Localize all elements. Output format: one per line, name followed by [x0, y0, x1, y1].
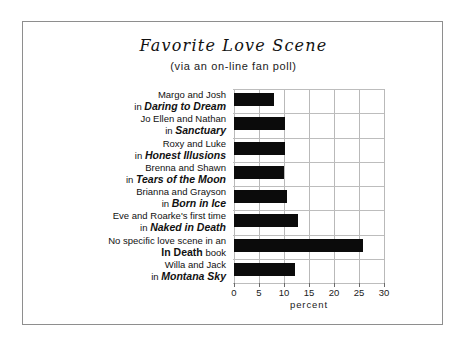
category-label-line1: Brianna and Grayson	[53, 186, 226, 197]
bar-row	[234, 113, 384, 137]
category-label-line1: Brenna and Shawn	[53, 162, 226, 173]
chart-page: Favorite Love Scene (via an on-line fan …	[0, 0, 466, 346]
category-label-line2: in Tears of the Moon	[53, 173, 226, 186]
category-label-line2: in Daring to Dream	[53, 100, 226, 113]
category-label: Brenna and Shawnin Tears of the Moon	[53, 162, 230, 186]
bar	[234, 117, 285, 130]
bar	[234, 190, 287, 203]
bar-row	[234, 235, 384, 259]
axis-tick-label: 0	[222, 287, 246, 298]
category-label: Willa and Jackin Montana Sky	[53, 259, 230, 283]
axis-tick-label: 10	[272, 287, 296, 298]
work-title: In Death	[161, 246, 202, 258]
axis-tick-label: 20	[322, 287, 346, 298]
x-axis: percent 051015202530	[234, 283, 384, 313]
work-title: Sanctuary	[175, 124, 226, 136]
category-label-line2: in Montana Sky	[53, 270, 226, 283]
work-title: Honest Illusions	[145, 149, 226, 161]
category-label-line1: Jo Ellen and Nathan	[53, 113, 226, 124]
axis-tick-label: 5	[247, 287, 271, 298]
bar-row	[234, 162, 384, 186]
category-label: Jo Ellen and Nathanin Sanctuary	[53, 113, 230, 137]
category-label: Margo and Joshin Daring to Dream	[53, 89, 230, 113]
chart-subtitle: (via an on-line fan poll)	[23, 59, 444, 73]
bar	[234, 239, 363, 252]
category-label-line1: Willa and Jack	[53, 259, 226, 270]
category-label-line2: in Honest Illusions	[53, 149, 226, 162]
page-title: Favorite Love Scene	[23, 36, 444, 56]
category-label-line2: in Born in Ice	[53, 197, 226, 210]
work-title: Born in Ice	[172, 197, 226, 209]
chart-frame: Favorite Love Scene (via an on-line fan …	[22, 21, 443, 325]
bar-row	[234, 138, 384, 162]
category-label-line1: No specific love scene in an	[53, 235, 226, 246]
bar	[234, 166, 284, 179]
bar-row	[234, 259, 384, 283]
work-title: Montana Sky	[161, 270, 226, 282]
category-label-line2: in Sanctuary	[53, 124, 226, 137]
work-title: Naked in Death	[150, 221, 226, 233]
bar	[234, 142, 285, 155]
category-label: Brianna and Graysonin Born in Ice	[53, 186, 230, 210]
work-title: Daring to Dream	[144, 100, 226, 112]
category-label-line1: Eve and Roarke's first time	[53, 210, 226, 221]
axis-tick-label: 25	[347, 287, 371, 298]
plot-area	[234, 89, 384, 283]
axis-tick-label: 30	[372, 287, 396, 298]
gridline-vertical	[384, 89, 385, 283]
bar	[234, 93, 274, 106]
category-label-line2: in Naked in Death	[53, 221, 226, 234]
bar-series	[234, 89, 384, 283]
category-label: Eve and Roarke's first timein Naked in D…	[53, 210, 230, 234]
title-block: Favorite Love Scene (via an on-line fan …	[23, 36, 444, 73]
category-label-line1: Margo and Josh	[53, 89, 226, 100]
work-title: Tears of the Moon	[136, 173, 226, 185]
category-label-line1: Roxy and Luke	[53, 138, 226, 149]
bar-row	[234, 89, 384, 113]
x-axis-label: percent	[234, 299, 384, 310]
bar-row	[234, 186, 384, 210]
category-label: No specific love scene in anIn Death boo…	[53, 235, 230, 259]
category-label: Roxy and Lukein Honest Illusions	[53, 138, 230, 162]
bar	[234, 214, 298, 227]
category-axis-labels: Margo and Joshin Daring to DreamJo Ellen…	[53, 89, 230, 283]
bar	[234, 263, 295, 276]
category-label-line2: In Death book	[53, 246, 226, 259]
axis-tick-label: 15	[297, 287, 321, 298]
bar-row	[234, 210, 384, 234]
